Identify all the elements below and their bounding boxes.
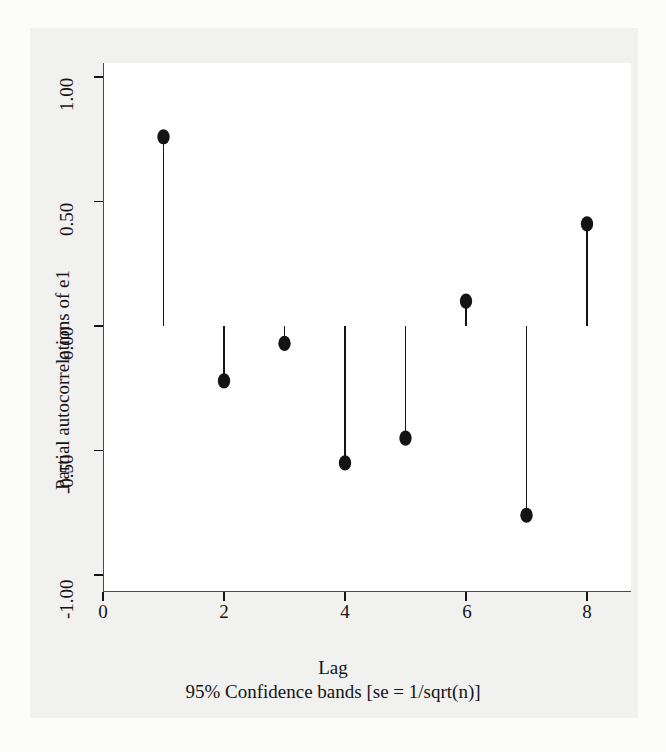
x-tick-label-8: 8	[567, 601, 607, 623]
stem-lines	[164, 137, 588, 515]
x-tick-label-2: 2	[204, 601, 244, 623]
y-tick-label-5: -1.00	[56, 579, 78, 619]
x-tick-label-0: 0	[83, 601, 123, 623]
x-tick-label-4: 4	[325, 601, 365, 623]
data-point-marker	[278, 336, 290, 351]
y-axis-title: Partial autocorrelations of e1	[52, 270, 74, 490]
x-axis-title: Lag	[0, 657, 666, 679]
y-tick-label-2: 0.50	[56, 203, 78, 236]
x-tick-label-6: 6	[447, 601, 487, 623]
data-point-marker	[399, 430, 411, 445]
chart-page: 1.00 0.50 0.00 -0.50 -1.00 0 2 4 6 8 Par…	[0, 0, 666, 752]
data-point-marker	[581, 216, 593, 231]
data-point-marker	[460, 294, 472, 309]
data-point-marker	[218, 373, 230, 388]
data-point-marker	[520, 508, 532, 523]
data-point-marker	[339, 455, 351, 470]
data-point-marker	[157, 129, 169, 144]
x-axis-note: 95% Confidence bands [se = 1/sqrt(n)]	[0, 681, 666, 703]
data-point-markers	[157, 129, 593, 523]
pacf-plot	[0, 0, 666, 752]
y-tick-label-1: 1.00	[56, 78, 78, 111]
tick-marks	[94, 77, 587, 601]
